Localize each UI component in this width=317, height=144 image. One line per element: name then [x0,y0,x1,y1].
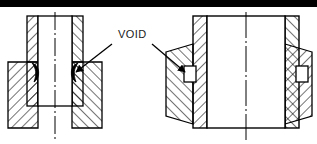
left-neck-wall-left [27,16,38,106]
void-right-flange-left [184,66,196,82]
top-black-bar [0,0,317,7]
right-flange-left [166,44,193,124]
technical-drawing-figure: VOID [0,0,317,144]
drawing-canvas: VOID [0,0,317,144]
void-label: VOID [118,28,147,40]
left-neck-wall-right [72,16,83,106]
void-right-flange-right [296,66,308,82]
